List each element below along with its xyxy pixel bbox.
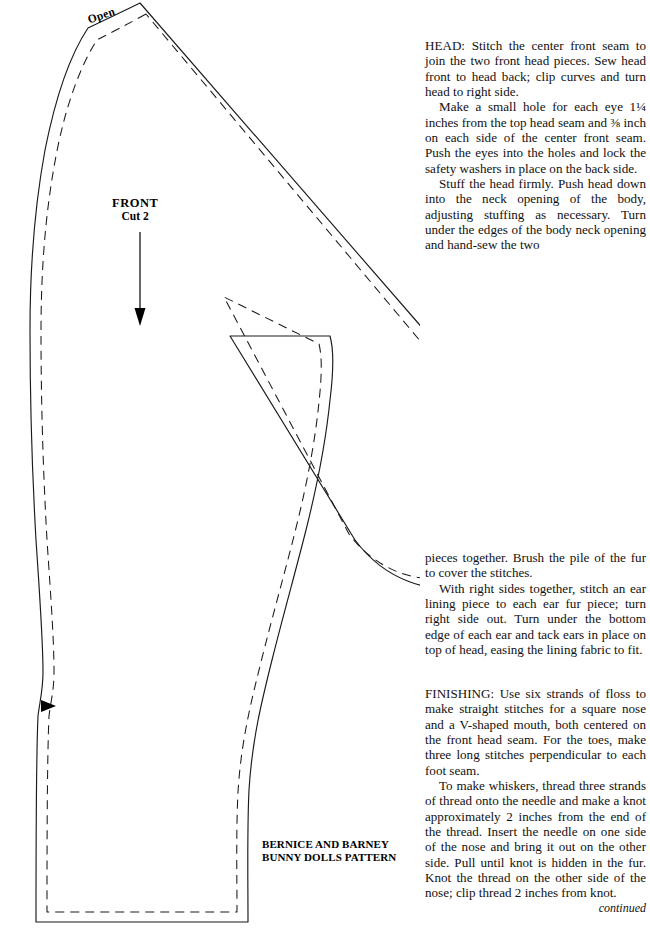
pattern-title-line1: BERNICE AND BARNEY (262, 838, 389, 850)
instructions-block-three: FINISHING: Use six strands of floss to m… (425, 686, 646, 916)
paragraph-stuff-head: Stuff the head firmly. Push head down in… (425, 176, 646, 253)
pattern-diagram: Open FRONT Cut 2 BERNICE AND BARNEY BUNN… (0, 0, 420, 944)
paragraph-ear-lining: With right sides together, stitch an ear… (425, 581, 646, 658)
paragraph-finishing: FINISHING: Use six strands of floss to m… (425, 686, 646, 778)
label-front-cut2: FRONT Cut 2 (112, 196, 158, 223)
instructions-block-one: HEAD: Stitch the center front seam to jo… (425, 38, 646, 253)
pattern-title: BERNICE AND BARNEY BUNNY DOLLS PATTERN (262, 838, 396, 865)
cutting-line-path (30, 3, 420, 922)
instructions-block-two: pieces together. Brush the pile of the f… (425, 550, 646, 657)
pattern-title-line2: BUNNY DOLLS PATTERN (262, 851, 396, 863)
paragraph-pieces-together: pieces together. Brush the pile of the f… (425, 550, 646, 581)
pattern-outline-svg (0, 0, 420, 944)
paragraph-eye-holes: Make a small hole for each eye 1¼ inches… (425, 99, 646, 176)
notch-marker-icon (41, 700, 56, 712)
paragraph-head-stitch: HEAD: Stitch the center front seam to jo… (425, 38, 646, 99)
seam-line-path (41, 14, 420, 912)
paragraph-whiskers: To make whiskers, thread three strands o… (425, 778, 646, 901)
label-cut-count: Cut 2 (112, 210, 158, 223)
label-front-text: FRONT (112, 196, 158, 210)
continued-note: continued (425, 901, 646, 916)
grainline-arrow-icon (135, 232, 146, 326)
